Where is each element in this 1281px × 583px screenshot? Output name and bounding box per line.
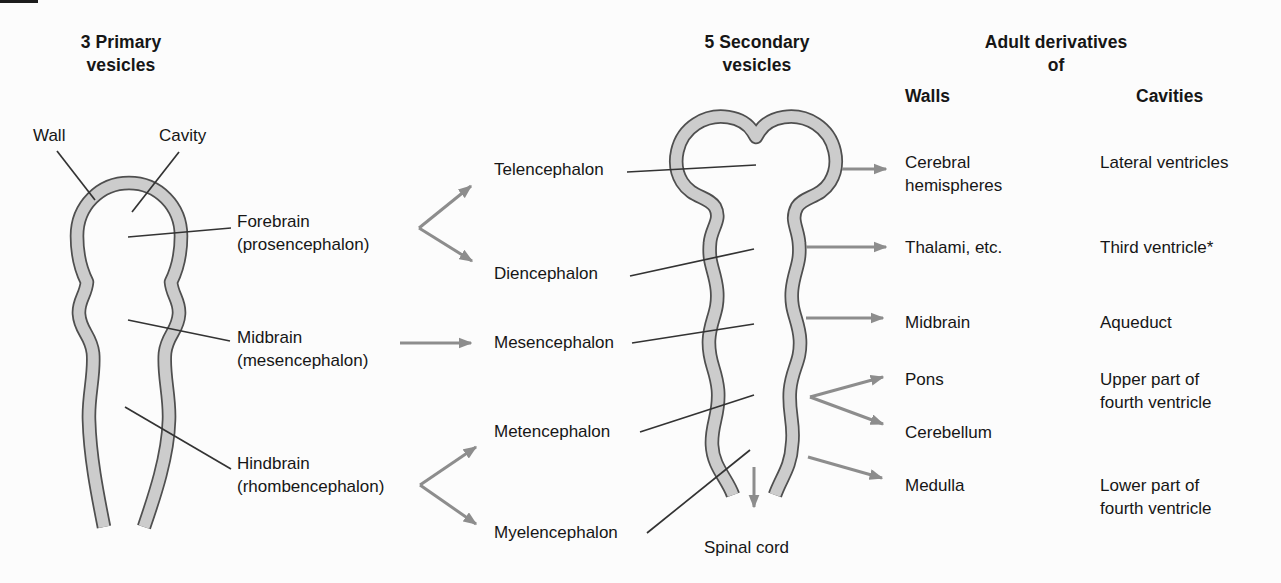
adult-wall-thalami: Thalami, etc.	[905, 236, 1002, 259]
adult-cavity-lower-fourth-ventricle: Lower part of fourth ventricle	[1100, 474, 1212, 520]
arrow-hindbrain-to-metencephalon	[420, 447, 476, 485]
label-telencephalon: Telencephalon	[494, 158, 604, 181]
forebrain-latin: (prosencephalon)	[237, 235, 369, 254]
forebrain-name: Forebrain	[237, 212, 310, 231]
leader-mesencephalon	[632, 324, 754, 343]
column-header-cavities: Cavities	[1136, 85, 1203, 108]
label-diencephalon: Diencephalon	[494, 262, 598, 285]
adult-cavity-aqueduct: Aqueduct	[1100, 311, 1172, 334]
label-wall: Wall	[33, 124, 65, 147]
leader-metencephalon	[640, 395, 754, 432]
brain-vesicle-development-figure: 3 Primary vesicles 5 Secondary vesicles …	[0, 0, 1281, 583]
midbrain-name: Midbrain	[237, 328, 302, 347]
heading-secondary-vesicles: 5 Secondary vesicles	[677, 31, 837, 77]
leader-diencephalon	[630, 249, 754, 276]
hindbrain-name: Hindbrain	[237, 454, 310, 473]
heading-primary-vesicles: 3 Primary vesicles	[41, 31, 201, 77]
leader-hindbrain	[125, 407, 231, 469]
arrow-to-cerebellum	[810, 397, 883, 424]
column-header-walls: Walls	[905, 85, 950, 108]
diagram-artwork	[0, 0, 1281, 583]
secondary-tube-wall	[676, 117, 835, 495]
label-spinal-cord: Spinal cord	[704, 536, 789, 559]
secondary-tube-outline	[676, 117, 835, 495]
derivation-arrows	[400, 169, 886, 524]
adult-cavity-lateral-ventricles: Lateral ventricles	[1100, 151, 1229, 174]
label-midbrain: Midbrain(mesencephalon)	[237, 326, 368, 372]
arrow-forebrain-to-diencephalon	[419, 228, 472, 261]
primary-vesicle-drawing	[77, 183, 181, 527]
adult-wall-cerebellum: Cerebellum	[905, 421, 992, 444]
label-forebrain: Forebrain(prosencephalon)	[237, 210, 369, 256]
label-metencephalon: Metencephalon	[494, 420, 610, 443]
leader-wall	[57, 151, 95, 200]
adult-wall-cerebral-hemispheres: Cerebral hemispheres	[905, 151, 1002, 197]
arrow-to-medulla	[808, 457, 882, 478]
adult-cavity-third-ventricle: Third ventricle*	[1100, 236, 1213, 259]
adult-wall-pons: Pons	[905, 368, 944, 391]
label-cavity: Cavity	[159, 124, 206, 147]
adult-wall-medulla: Medulla	[905, 474, 965, 497]
label-myelencephalon: Myelencephalon	[494, 521, 618, 544]
midbrain-latin: (mesencephalon)	[237, 351, 368, 370]
heading-adult-derivatives: Adult derivatives of	[966, 31, 1146, 77]
arrow-to-pons	[810, 377, 883, 397]
label-hindbrain: Hindbrain(rhombencephalon)	[237, 452, 384, 498]
label-mesencephalon: Mesencephalon	[494, 331, 614, 354]
arrow-forebrain-to-telencephalon	[419, 186, 471, 228]
adult-wall-midbrain: Midbrain	[905, 311, 970, 334]
adult-cavity-upper-fourth-ventricle: Upper part of fourth ventricle	[1100, 368, 1212, 414]
primary-tube-wall	[77, 183, 181, 527]
secondary-vesicle-drawing	[676, 117, 835, 495]
arrow-hindbrain-to-myelencephalon	[420, 485, 476, 524]
hindbrain-latin: (rhombencephalon)	[237, 477, 384, 496]
leader-telencephalon	[627, 165, 756, 172]
